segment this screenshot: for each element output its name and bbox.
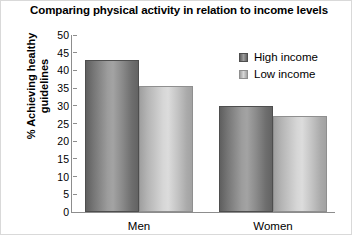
y-tick-label: 35	[35, 82, 69, 94]
y-tick: 50	[29, 29, 77, 41]
legend-label: Low income	[254, 67, 315, 81]
y-tick-label: 40	[35, 64, 69, 76]
y-tick-label: 0	[35, 206, 69, 218]
y-tick: 25	[29, 118, 77, 130]
bar-women-high-income	[219, 106, 273, 212]
y-tick-mark	[73, 212, 77, 213]
x-axis-line	[71, 212, 335, 213]
y-tick-mark	[73, 194, 77, 195]
y-tick-label: 15	[35, 153, 69, 165]
y-tick-label: 10	[35, 171, 69, 183]
y-tick-label: 45	[35, 47, 69, 59]
y-tick: 40	[29, 64, 77, 76]
y-tick-mark	[73, 70, 77, 71]
y-tick-label: 5	[35, 188, 69, 200]
y-tick-label: 50	[35, 29, 69, 41]
y-tick-label: 20	[35, 135, 69, 147]
legend-swatch-icon	[239, 53, 248, 62]
bar-men-high-income	[85, 60, 139, 212]
y-tick: 20	[29, 135, 77, 147]
y-tick-label: 30	[35, 100, 69, 112]
y-tick: 15	[29, 153, 77, 165]
x-category-label: Women	[219, 219, 327, 233]
y-tick-mark	[73, 35, 77, 36]
y-tick: 30	[29, 100, 77, 112]
y-tick-mark	[73, 123, 77, 124]
chart-legend: High incomeLow income	[239, 50, 318, 84]
y-tick-mark	[73, 158, 77, 159]
legend-label: High income	[254, 50, 318, 64]
y-tick-label: 25	[35, 118, 69, 130]
y-tick: 45	[29, 47, 77, 59]
y-tick-mark	[73, 141, 77, 142]
y-tick: 35	[29, 82, 77, 94]
bar-chart: Comparing physical activity in relation …	[0, 0, 352, 235]
legend-swatch-icon	[239, 70, 248, 79]
legend-item[interactable]: Low income	[239, 67, 318, 81]
y-tick-mark	[73, 88, 77, 89]
y-tick-mark	[73, 52, 77, 53]
chart-title: Comparing physical activity in relation …	[29, 4, 329, 18]
y-tick: 0	[29, 206, 77, 218]
bar-women-low-income	[273, 116, 327, 212]
x-category-label: Men	[85, 219, 193, 233]
y-tick-mark	[73, 176, 77, 177]
y-tick: 5	[29, 188, 77, 200]
y-tick-mark	[73, 105, 77, 106]
bar-men-low-income	[139, 86, 193, 212]
y-tick: 10	[29, 171, 77, 183]
legend-item[interactable]: High income	[239, 50, 318, 64]
